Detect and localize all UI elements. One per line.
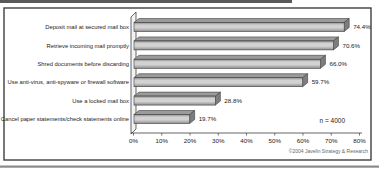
value-label: 70.6%: [342, 42, 360, 49]
bar: [134, 115, 190, 124]
bar: [134, 59, 320, 68]
bar: [134, 78, 303, 87]
category-label: Cancel paper statements/check statements…: [1, 116, 129, 122]
x-tick-label: 70%: [325, 137, 338, 144]
copyright-note: ©2004 Javelin Strategy & Research: [289, 148, 369, 154]
x-tick-label: 50%: [269, 137, 282, 144]
bar: [134, 96, 215, 105]
bar-top-face: [134, 92, 220, 96]
bar-top-face: [134, 111, 195, 115]
value-label: 66.0%: [329, 60, 347, 67]
sample-size-note: n = 4000: [320, 117, 346, 124]
bar: [134, 41, 333, 50]
x-tick-label: 20%: [184, 137, 197, 144]
value-label: 59.7%: [312, 78, 330, 85]
x-tick-label: 40%: [240, 137, 253, 144]
value-label: 28.8%: [224, 97, 242, 104]
value-label: 19.7%: [199, 115, 217, 122]
category-label: Deposit mail at secured mail box: [45, 24, 129, 30]
x-tick-label: 10%: [156, 137, 169, 144]
category-label: Retrieve incoming mail promptly: [47, 43, 130, 49]
top-rule: [0, 0, 292, 3]
mail-security-behaviors-bar-chart: Deposit mail at secured mail box74.4%Ret…: [0, 0, 379, 173]
bar-top-face: [134, 19, 349, 23]
category-label: Shred documents before discarding: [37, 61, 129, 67]
bottom-rule: [0, 166, 379, 168]
bar-top-face: [134, 74, 308, 78]
bar-top-face: [134, 37, 338, 41]
x-tick-label: 60%: [297, 137, 310, 144]
x-tick-label: 0%: [129, 137, 138, 144]
category-label: Use anti-virus, anti-spyware or firewall…: [8, 79, 129, 85]
x-tick-label: 80%: [353, 137, 366, 144]
bar: [134, 23, 344, 32]
x-tick-label: 30%: [212, 137, 225, 144]
value-label: 74.4%: [353, 23, 371, 30]
survey-figure-page: Deposit mail at secured mail box74.4%Ret…: [0, 0, 379, 173]
category-label: Use a locked mail box: [72, 98, 129, 104]
bar-top-face: [134, 55, 325, 59]
